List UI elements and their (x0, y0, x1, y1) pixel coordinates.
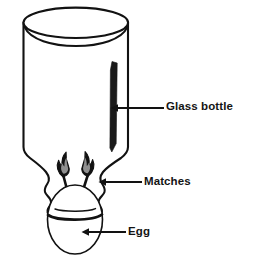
glass-bottle-group (24, 8, 129, 214)
bottle-body (24, 23, 52, 215)
label-egg: Egg (128, 226, 150, 238)
label-glass-bottle: Glass bottle (166, 101, 233, 113)
bottle-rim (24, 8, 129, 38)
label-matches: Matches (144, 176, 191, 188)
egg-group (48, 185, 103, 254)
bottle-egg-diagram (0, 0, 254, 264)
figure-canvas: Glass bottle Matches Egg (0, 0, 254, 264)
